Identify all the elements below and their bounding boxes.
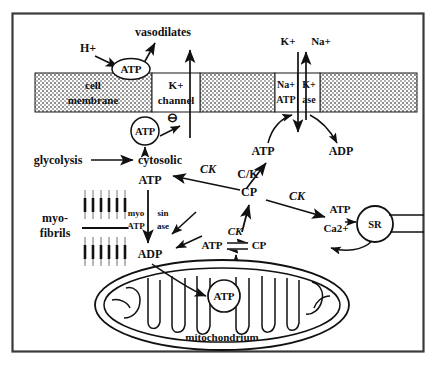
ck-label-cytosolic: CK bbox=[200, 162, 217, 176]
myofibrils-label-line2: fibrils bbox=[40, 226, 71, 240]
ck-label-mito: CK bbox=[228, 225, 243, 237]
cell-membrane-label-line2: membrane bbox=[68, 94, 119, 106]
mitochondrion-label: mitochondrium bbox=[185, 331, 258, 343]
cp-hub-label: CP bbox=[241, 185, 257, 199]
myosin-atpase-label-ase: ase bbox=[157, 221, 169, 231]
pump-atp-label: ATP bbox=[251, 144, 274, 158]
sr-calcium-label: Ca2+ bbox=[323, 222, 348, 234]
pump-label-k: K+ bbox=[302, 79, 316, 90]
pump-label-atp: ATP bbox=[276, 94, 295, 105]
atp-channel-inhibitor-label: ATP bbox=[135, 126, 156, 137]
cell-membrane-label-line1: cell bbox=[85, 79, 101, 91]
membrane-segment-middle bbox=[200, 73, 275, 112]
ck-pump-label: C/K bbox=[237, 167, 259, 181]
mito-atp-label: ATP bbox=[201, 239, 222, 251]
cytosolic-label: cytosolic bbox=[138, 153, 183, 167]
glycolysis-label: glycolysis bbox=[34, 153, 83, 167]
figure-canvas: cell membrane K+ channel Na+ ATP K+ ase … bbox=[0, 0, 439, 370]
mito-cp-label: CP bbox=[252, 239, 267, 251]
k-channel-label-line1: K+ bbox=[169, 79, 184, 91]
h-plus-label: H+ bbox=[80, 41, 96, 55]
pump-adp-label: ADP bbox=[329, 144, 354, 158]
vasodilates-label: vasodilates bbox=[135, 25, 191, 39]
myofibril-adp-label: ADP bbox=[138, 247, 163, 261]
mitochondrial-atp-label: ATP bbox=[213, 290, 234, 302]
k-channel-label-line2: channel bbox=[158, 94, 195, 106]
pump-label-na: Na+ bbox=[277, 79, 295, 90]
k-out-label: K+ bbox=[281, 35, 296, 47]
inhibition-minus-icon: ⊖ bbox=[167, 110, 178, 125]
myosin-atpase-label-myo: myo bbox=[128, 208, 145, 218]
na-out-label: Na+ bbox=[311, 35, 331, 47]
pump-label-ase: ase bbox=[302, 94, 316, 105]
sr-atp-label: ATP bbox=[329, 203, 350, 215]
membrane-segment-right bbox=[320, 73, 417, 112]
sr-label: SR bbox=[368, 219, 382, 230]
cytosolic-atp-label: ATP bbox=[138, 173, 161, 187]
myofibrils-label-line1: myo- bbox=[42, 211, 68, 225]
myosin-atpase-label-atp: ATP bbox=[127, 221, 145, 231]
extracellular-atp-label: ATP bbox=[120, 63, 141, 75]
diagram-svg: cell membrane K+ channel Na+ ATP K+ ase … bbox=[0, 0, 439, 370]
myosin-atpase-label-sin: sin bbox=[157, 208, 168, 218]
ck-label-sr: CK bbox=[289, 189, 306, 203]
